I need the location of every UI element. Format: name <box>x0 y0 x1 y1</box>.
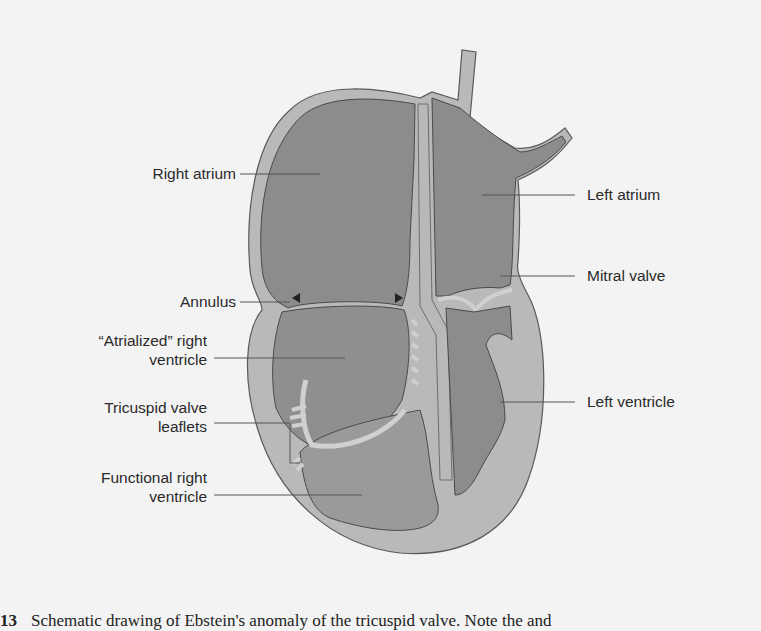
label-line: Left ventricle <box>587 392 675 411</box>
label-line: Left atrium <box>587 185 660 204</box>
label-functional-right-ventricle: Functional right ventricle <box>101 468 207 506</box>
label-line: “Atrialized” right <box>98 331 207 350</box>
label-mitral-valve: Mitral valve <box>587 266 665 285</box>
label-line: leaflets <box>104 417 207 436</box>
left-atrium-chamber <box>432 98 566 296</box>
label-line: Right atrium <box>152 164 236 183</box>
label-line: Tricuspid valve <box>104 398 207 417</box>
heart-illustration <box>0 0 761 600</box>
label-annulus: Annulus <box>180 292 236 311</box>
label-line: ventricle <box>98 350 207 369</box>
label-line: Mitral valve <box>587 266 665 285</box>
heart-diagram: Right atrium Annulus “Atrialized” right … <box>0 0 761 600</box>
label-atrialized-right-ventricle: “Atrialized” right ventricle <box>98 331 207 369</box>
label-left-ventricle: Left ventricle <box>587 392 675 411</box>
label-line: ventricle <box>101 487 207 506</box>
label-left-atrium: Left atrium <box>587 185 660 204</box>
figure-number: 13 <box>0 611 17 630</box>
label-line: Annulus <box>180 292 236 311</box>
label-line: Functional right <box>101 468 207 487</box>
figure-caption: 13Schematic drawing of Ebstein's anomaly… <box>0 611 761 631</box>
label-tricuspid-valve-leaflets: Tricuspid valve leaflets <box>104 398 207 436</box>
caption-text: Schematic drawing of Ebstein's anomaly o… <box>31 611 551 630</box>
label-right-atrium: Right atrium <box>152 164 236 183</box>
